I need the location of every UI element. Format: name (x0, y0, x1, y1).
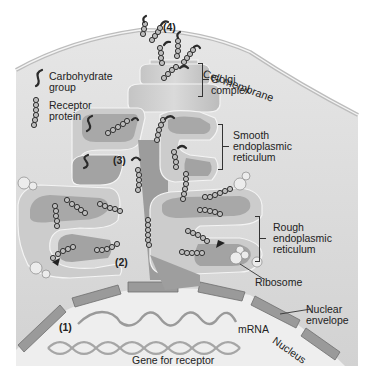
legend-carbohydrate-label: Carbohydrate group (49, 71, 113, 93)
mrna-label: mRNA (238, 324, 269, 335)
nuclear-envelope-line2: envelope (306, 315, 349, 326)
smooth-er-bracket-tick (223, 146, 229, 147)
smooth-er-label: Smooth endoplasmic reticulum (233, 130, 292, 163)
rough-er-bracket-tick (260, 238, 266, 239)
rough-er-line3: reticulum (273, 244, 332, 255)
gene-label: Gene for receptor (132, 355, 214, 366)
step-1-label: (1) (59, 321, 72, 333)
golgi-label: Golgi complex (211, 74, 250, 96)
ribosome-label: Ribosome (255, 277, 302, 288)
cell-diagram: Carbohydrate group Receptor protein (4) … (0, 0, 372, 379)
legend-carbohydrate-line2: group (49, 82, 113, 93)
rough-er-label: Rough endoplasmic reticulum (273, 222, 332, 255)
legend-receptor-label: Receptor protein (49, 100, 92, 122)
step-2-label: (2) (115, 256, 128, 268)
smooth-er-line3: reticulum (233, 152, 292, 163)
step-3-label: (3) (113, 154, 126, 166)
golgi-bracket-tick (203, 79, 209, 80)
legend-receptor-line2: protein (49, 111, 92, 122)
golgi-label-line2: complex (211, 85, 250, 96)
nuclear-envelope-label: Nuclear envelope (306, 304, 349, 326)
step-4-label: (4) (163, 21, 176, 33)
